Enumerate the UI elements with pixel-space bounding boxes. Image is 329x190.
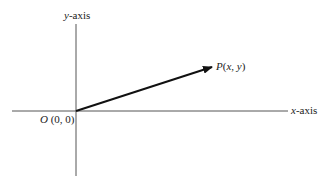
- point-close-paren: ): [242, 60, 246, 72]
- position-vector: [76, 67, 212, 111]
- y-axis-label: y-axis: [64, 10, 90, 21]
- point-label: P(x, y): [216, 61, 245, 72]
- origin-name: O: [40, 113, 48, 125]
- x-axis-label: x-axis: [291, 105, 317, 116]
- origin-label: O (0, 0): [40, 114, 75, 125]
- point-name: P: [216, 60, 223, 72]
- y-axis-suffix: -axis: [69, 9, 90, 21]
- diagram-canvas: [0, 0, 329, 190]
- origin-coords: (0, 0): [51, 113, 75, 125]
- x-axis-suffix: -axis: [296, 104, 317, 116]
